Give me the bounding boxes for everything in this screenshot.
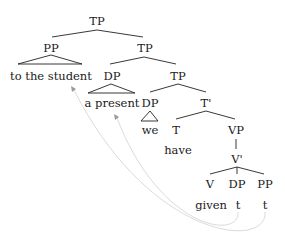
node-vp: VP bbox=[227, 123, 244, 137]
arrowhead-icon bbox=[114, 114, 119, 120]
node-pp-trace: PP bbox=[257, 177, 273, 191]
pp-triangle bbox=[18, 55, 82, 64]
yield-we: we bbox=[142, 123, 159, 137]
node-t-bar: T' bbox=[201, 96, 212, 110]
yield-have: have bbox=[164, 143, 192, 157]
syntax-tree: TP PP to the student TP DP a present TP … bbox=[0, 0, 285, 235]
dp-we-triangle bbox=[141, 111, 158, 121]
yield-to-the-student: to the student bbox=[10, 69, 92, 83]
node-dp-trace: DP bbox=[229, 177, 246, 191]
node-pp-top: PP bbox=[43, 41, 59, 55]
dp-present-triangle bbox=[88, 84, 135, 93]
node-tp-root: TP bbox=[89, 14, 105, 28]
node-tp-mid: TP bbox=[137, 41, 153, 55]
node-v-bar: V' bbox=[230, 152, 242, 166]
node-t-head: T bbox=[172, 123, 180, 137]
arrowhead-icon bbox=[71, 86, 76, 92]
trace-dp: t bbox=[236, 198, 241, 212]
yield-a-present: a present bbox=[85, 96, 140, 110]
node-tp-low: TP bbox=[170, 69, 186, 83]
node-dp-we: DP bbox=[142, 96, 159, 110]
node-v-head: V bbox=[205, 177, 215, 191]
node-dp-present: DP bbox=[104, 69, 121, 83]
trace-pp: t bbox=[263, 198, 268, 212]
yield-given: given bbox=[195, 198, 227, 212]
